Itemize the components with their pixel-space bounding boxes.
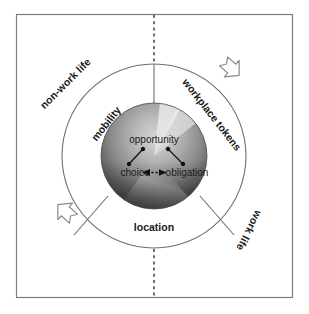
diagram-figure: opportunity choice obligation mobility w…	[0, 0, 309, 314]
ring-label-location: location	[134, 221, 174, 233]
core-label-opportunity: opportunity	[129, 134, 178, 145]
core-label-obligation: obligation	[166, 167, 209, 178]
core-label-choice: choice	[121, 167, 150, 178]
diagram-canvas: opportunity choice obligation mobility w…	[0, 0, 309, 314]
